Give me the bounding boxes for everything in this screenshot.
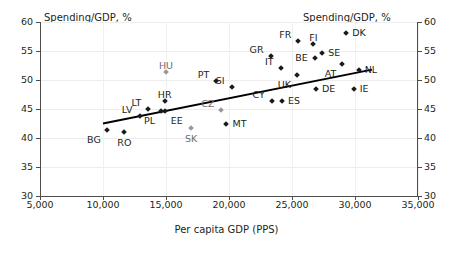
y-tick-label-right: 50	[424, 75, 450, 85]
x-tick-label: 15,000	[140, 200, 192, 210]
x-tick-label: 30,000	[329, 200, 381, 210]
y-tick-left	[36, 22, 40, 23]
data-point-label: RO	[98, 138, 150, 148]
y-tick-label-right: 55	[424, 46, 450, 56]
data-point-label: FR	[0, 30, 291, 40]
data-point-label: FI	[287, 33, 339, 43]
x-tick-label: 10,000	[77, 200, 129, 210]
x-tick-label: 35,000	[392, 200, 444, 210]
x-tick-label: 25,000	[266, 200, 318, 210]
y-tick-label-left: 35	[7, 162, 33, 172]
data-point-label: SK	[165, 134, 217, 144]
y-tick-label-right: 45	[424, 104, 450, 114]
data-point-label: DE	[322, 84, 335, 94]
y-tick-left	[36, 167, 40, 168]
data-point-label: BG	[0, 135, 101, 145]
data-point-label: NL	[365, 65, 377, 75]
data-point-label: BE	[0, 53, 308, 63]
data-point-label: MT	[232, 119, 246, 129]
y-tick-right	[418, 80, 422, 81]
x-axis-title: Per capita GDP (PPS)	[0, 224, 453, 235]
y-tick-label-right: 60	[424, 17, 450, 27]
data-point-label: DK	[352, 28, 366, 38]
x-tick-label: 20,000	[203, 200, 255, 210]
data-point-label: CZ	[0, 99, 214, 109]
data-point-label: IE	[360, 84, 369, 94]
gridline-vertical	[355, 22, 356, 196]
y-tick-right	[418, 138, 422, 139]
data-point-label: CY	[0, 90, 265, 100]
data-point-label: PL	[0, 116, 155, 126]
data-point-label: SE	[328, 48, 340, 58]
y-tick-label-left: 60	[7, 17, 33, 27]
data-point-label: UK	[0, 80, 291, 90]
scatter-chart: Spending/GDP, % Spending/GDP, % Per capi…	[0, 0, 453, 260]
y-tick-right	[418, 51, 422, 52]
data-point-label: AT	[0, 69, 336, 79]
y-tick-right	[418, 109, 422, 110]
y-tick-right	[418, 22, 422, 23]
data-point-label: EE	[171, 116, 183, 126]
gridline-vertical	[292, 22, 293, 196]
y-tick-right	[418, 167, 422, 168]
y-tick-label-right: 40	[424, 133, 450, 143]
y-tick-label-right: 35	[424, 162, 450, 172]
data-point-label: ES	[288, 96, 300, 106]
x-tick-label: 5,000	[14, 200, 66, 210]
